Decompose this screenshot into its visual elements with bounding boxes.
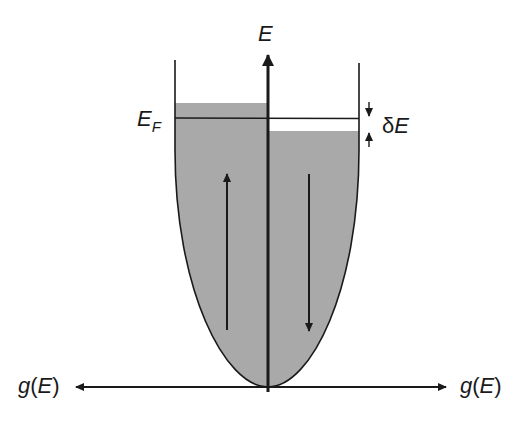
delta-e-label: δE: [382, 113, 409, 138]
fermi-level-label: EF: [137, 106, 162, 135]
spin-up-filled-states: [175, 60, 268, 387]
left-dos-axis-label: g(E): [18, 373, 60, 398]
right-dos-axis-label: g(E): [460, 373, 502, 398]
energy-axis-label: E: [258, 21, 273, 46]
density-of-states-diagram: E EF δE g(E) g(E): [0, 0, 530, 422]
spin-down-filled-states: [268, 60, 359, 387]
